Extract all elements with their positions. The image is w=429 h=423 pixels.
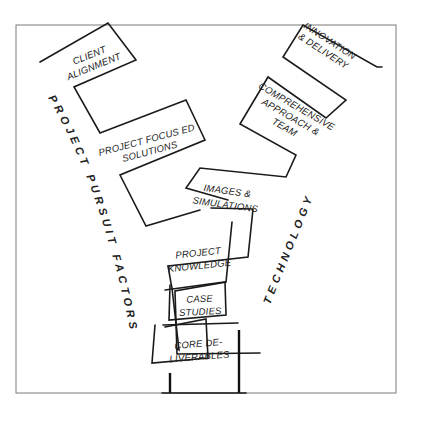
left-axis-label: PROJECT PURSUIT FACTORS [46,93,140,334]
y-funnel-diagram: CLIENT ALIGNMENT INNOVATION & DELIVERY C… [0,0,429,423]
box-case-studies: CASE STUDIES [178,292,222,318]
right-axis-label: TECHNOLOGY [261,192,316,306]
box-images-simulations: IMAGES & SIMULATIONS [192,181,261,215]
box-comprehensive-approach-team: COMPREHENSIVE APPROACH & TEAM [245,80,337,154]
box-label-line1: CASE [186,292,214,304]
left-axis-label-text: PROJECT PURSUIT FACTORS [46,93,140,334]
box-core-deliverables: CORE DE- LIVERABLES [168,335,230,364]
box-label-line2: STUDIES [179,305,223,318]
box-project-knowledge: PROJECT KNOWLEDGE [166,244,232,275]
box-innovation-delivery: INNOVATION & DELIVERY [295,20,358,72]
right-axis-label-text: TECHNOLOGY [261,192,316,306]
